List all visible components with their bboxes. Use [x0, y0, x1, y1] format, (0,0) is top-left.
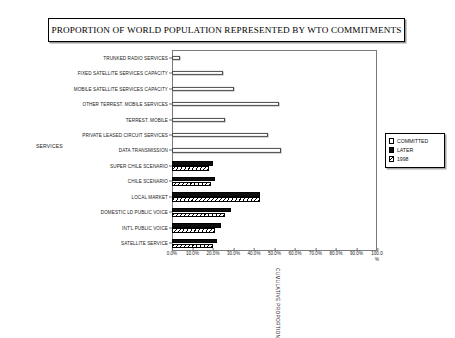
category-label: INT'L PUBLIC VOICE [122, 225, 168, 230]
legend-item[interactable]: 1998 [389, 155, 441, 164]
bar-row: FIXED SATELLITE SERVICES CAPACITY [0, 65, 455, 80]
bar-row: DOMESTIC LD PUBLIC VOICE [0, 205, 455, 220]
bar-committed [172, 102, 279, 106]
bar-later [172, 239, 217, 244]
x-axis-tick-mark [233, 248, 234, 251]
bar-committed [172, 71, 223, 75]
legend-label: COMMITTED [397, 138, 428, 144]
y-axis-title: SERVICES [36, 143, 63, 149]
x-axis-tick-label: 60.0% [289, 251, 302, 257]
bar-1998 [172, 213, 225, 218]
category-label: FIXED SATELLITE SERVICES CAPACITY [78, 71, 168, 76]
x-axis-tick-mark [356, 248, 357, 251]
category-label: OTHER TERREST. MOBILE SERVICES [82, 102, 168, 107]
bar-row: MOBILE SATELLITE SERVICES CAPACITY [0, 81, 455, 96]
category-label: TRUNKED RADIO SERVICES [103, 55, 168, 60]
category-label: TERREST. MOBILE [126, 117, 168, 122]
x-axis-tick-mark [336, 248, 337, 251]
chart-title-box: PROPORTION OF WORLD POPULATION REPRESENT… [48, 18, 405, 42]
bar-1998 [172, 182, 211, 187]
x-axis-tick-label: 50.0% [268, 251, 281, 257]
legend-label: LATER [397, 147, 413, 153]
x-axis-tick-label: 30.0% [227, 251, 240, 257]
bar-row: OTHER TERREST. MOBILE SERVICES [0, 96, 455, 111]
legend-label: 1998 [397, 156, 409, 162]
x-axis-tick-mark [254, 248, 255, 251]
page-title: PROPORTION OF WORLD POPULATION REPRESENT… [51, 25, 401, 35]
bar-row: CHILE SCENARIO [0, 174, 455, 189]
x-axis-tick-mark [192, 248, 193, 251]
bar-row: SATELLITE SERVICE [0, 236, 455, 251]
bar-row: INT'L PUBLIC VOICE [0, 220, 455, 235]
legend: COMMITTEDLATER1998 [385, 133, 445, 168]
x-axis-tick-mark [172, 248, 173, 251]
bar-1998 [172, 197, 260, 202]
x-axis-tick-mark [213, 248, 214, 251]
x-axis-tick-label: 90.0% [350, 251, 363, 257]
category-label: LOCAL MARKET [131, 194, 168, 199]
legend-item[interactable]: LATER [389, 146, 441, 155]
x-axis-tick-label: 20.0% [207, 251, 220, 257]
x-axis-tick-mark [274, 248, 275, 251]
bar-committed [172, 133, 268, 137]
category-label: SUPER CHILE SCENARIO [110, 163, 168, 168]
legend-swatch-icon [389, 138, 394, 143]
x-axis-tick-mark [295, 248, 296, 251]
x-axis-tick-label: 40.0% [248, 251, 261, 257]
category-label: DATA TRANSMISSION [119, 148, 168, 153]
legend-item[interactable]: COMMITTED [389, 137, 441, 146]
legend-swatch-icon [389, 147, 394, 152]
x-axis-title: CUMULATIVE PROPORTION [274, 268, 281, 338]
bar-1998 [172, 166, 209, 171]
bar-later [172, 161, 213, 166]
category-label: PRIVATE LEASED CIRCUIT SERVICES [82, 133, 168, 138]
x-axis-tick-label: 70.0% [309, 251, 322, 257]
bar-committed [172, 87, 234, 91]
x-axis-tick-label: 80.0% [330, 251, 343, 257]
category-label: MOBILE SATELLITE SERVICES CAPACITY [74, 86, 168, 91]
x-axis-ticks: 0.0%10.0%20.0%30.0%40.0%50.0%60.0%70.0%8… [172, 251, 377, 267]
bar-later [172, 223, 221, 228]
bar-later [172, 208, 231, 213]
bar-row: LOCAL MARKET [0, 189, 455, 204]
x-axis-tick-mark [377, 248, 378, 251]
bar-row: TRUNKED RADIO SERVICES [0, 50, 455, 65]
category-label: CHILE SCENARIO [128, 179, 168, 184]
bar-later [172, 177, 215, 182]
x-axis-tick-label: 10.0% [186, 251, 199, 257]
bar-committed [172, 117, 225, 121]
bar-row: TERREST. MOBILE [0, 112, 455, 127]
x-axis-tick-label: 0.0% [167, 251, 177, 257]
bar-committed [172, 56, 180, 60]
legend-swatch-icon [389, 156, 394, 161]
category-label: DOMESTIC LD PUBLIC VOICE [101, 210, 168, 215]
bar-later [172, 192, 260, 197]
bar-committed [172, 148, 281, 152]
bar-1998 [172, 228, 215, 233]
x-axis-tick-label: 100.0 % [371, 251, 382, 263]
category-label: SATELLITE SERVICE [121, 241, 168, 246]
x-axis-tick-mark [315, 248, 316, 251]
